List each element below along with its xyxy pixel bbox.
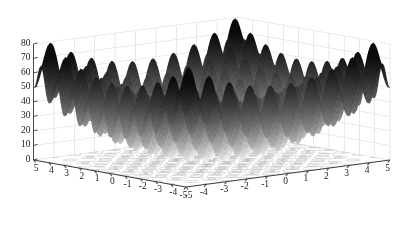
surface-plot-figure: 01020304050607080543210-1-2-3-4-5-5-4-3-… [0, 0, 407, 229]
rastrigin-surface-canvas [0, 0, 407, 229]
